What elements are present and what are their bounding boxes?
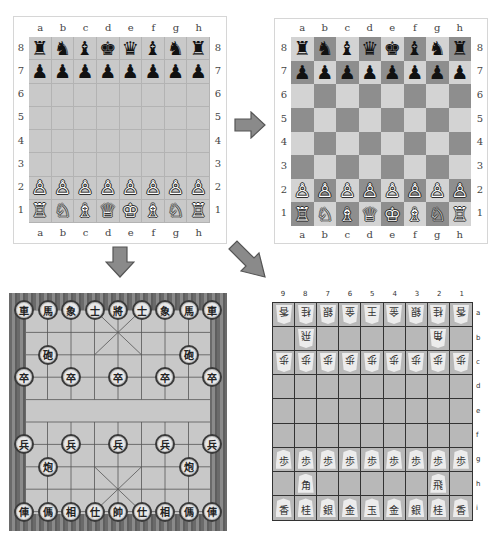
square-f5[interactable] <box>142 107 165 130</box>
shogi-square-3c[interactable]: 歩 <box>406 351 428 375</box>
shogi-square-9i[interactable]: 香 <box>273 496 295 520</box>
shogi-square-7b[interactable] <box>317 327 339 351</box>
square-a8[interactable]: ♜ <box>291 37 314 61</box>
square-a1[interactable]: ♖ <box>29 200 52 223</box>
square-g1[interactable]: ♘ <box>426 202 449 226</box>
shogi-square-8c[interactable]: 歩 <box>295 351 317 375</box>
square-e3[interactable] <box>120 153 143 176</box>
chess-piece-icon[interactable]: ♟ <box>294 63 311 82</box>
square-c1[interactable]: ♗ <box>74 200 97 223</box>
chess-piece-icon[interactable]: ♛ <box>361 39 378 58</box>
shogi-square-3d[interactable] <box>406 375 428 399</box>
chess-piece-icon[interactable]: ♗ <box>77 201 94 220</box>
shogi-piece[interactable]: 歩 <box>408 450 424 469</box>
shogi-square-7i[interactable]: 銀 <box>317 496 339 520</box>
square-g7[interactable]: ♟ <box>426 61 449 85</box>
square-b7[interactable]: ♟ <box>314 61 337 85</box>
square-f4[interactable] <box>404 132 427 156</box>
shogi-piece[interactable]: 銀 <box>408 498 424 517</box>
shogi-square-8g[interactable]: 歩 <box>295 448 317 472</box>
shogi-square-6d[interactable] <box>339 375 361 399</box>
square-c6[interactable] <box>336 84 359 108</box>
shogi-square-1a[interactable]: 香 <box>450 303 472 327</box>
shogi-square-4h[interactable] <box>384 472 406 496</box>
chess-piece-icon[interactable]: ♟ <box>384 63 401 82</box>
square-f2[interactable]: ♙ <box>404 179 427 203</box>
square-b1[interactable]: ♘ <box>52 200 75 223</box>
shogi-square-9d[interactable] <box>273 375 295 399</box>
square-e6[interactable] <box>381 84 404 108</box>
square-e4[interactable] <box>381 132 404 156</box>
shogi-piece[interactable]: 歩 <box>342 450 358 469</box>
shogi-piece[interactable]: 金 <box>386 305 402 324</box>
chess-piece-icon[interactable]: ♚ <box>99 39 116 58</box>
xiangqi-piece[interactable]: 將 <box>108 300 128 320</box>
shogi-piece[interactable]: 歩 <box>453 450 469 469</box>
xiangqi-piece[interactable]: 傌 <box>38 502 58 522</box>
shogi-square-2b[interactable]: 角 <box>428 327 450 351</box>
xiangqi-piece[interactable]: 相 <box>155 502 175 522</box>
chess-piece-icon[interactable]: ♜ <box>31 39 48 58</box>
chess-piece-icon[interactable]: ♙ <box>451 181 468 200</box>
chess-piece-icon[interactable]: ♖ <box>190 201 207 220</box>
square-d7[interactable]: ♟ <box>97 60 120 83</box>
shogi-square-7a[interactable]: 銀 <box>317 303 339 327</box>
shogi-piece[interactable]: 歩 <box>342 353 358 372</box>
chess-piece-icon[interactable]: ♙ <box>384 181 401 200</box>
chess-piece-icon[interactable]: ♝ <box>406 39 423 58</box>
xiangqi-piece[interactable]: 象 <box>155 300 175 320</box>
square-a7[interactable]: ♟ <box>291 61 314 85</box>
square-c3[interactable] <box>336 155 359 179</box>
square-g6[interactable] <box>165 84 188 107</box>
square-g1[interactable]: ♘ <box>165 200 188 223</box>
shogi-square-9b[interactable] <box>273 327 295 351</box>
square-g5[interactable] <box>165 107 188 130</box>
chess-piece-icon[interactable]: ♙ <box>190 178 207 197</box>
square-d4[interactable] <box>359 132 382 156</box>
shogi-piece[interactable]: 歩 <box>320 450 336 469</box>
square-a1[interactable]: ♖ <box>291 202 314 226</box>
chess-piece-icon[interactable]: ♚ <box>384 39 401 58</box>
shogi-piece[interactable]: 歩 <box>453 353 469 372</box>
chess-piece-icon[interactable]: ♟ <box>190 62 207 81</box>
square-c2[interactable]: ♙ <box>336 179 359 203</box>
square-c2[interactable]: ♙ <box>74 177 97 200</box>
chess-piece-icon[interactable]: ♟ <box>451 63 468 82</box>
chess-piece-icon[interactable]: ♞ <box>167 39 184 58</box>
square-b6[interactable] <box>314 84 337 108</box>
shogi-square-6e[interactable] <box>339 399 361 423</box>
square-f1[interactable]: ♗ <box>404 202 427 226</box>
xiangqi-piece[interactable]: 士 <box>132 300 152 320</box>
chess-piece-icon[interactable]: ♟ <box>316 63 333 82</box>
square-a6[interactable] <box>291 84 314 108</box>
square-a8[interactable]: ♜ <box>29 37 52 60</box>
square-g2[interactable]: ♙ <box>165 177 188 200</box>
shogi-square-5h[interactable] <box>361 472 383 496</box>
xiangqi-piece[interactable]: 馬 <box>38 300 58 320</box>
shogi-square-8d[interactable] <box>295 375 317 399</box>
square-h4[interactable] <box>449 132 472 156</box>
square-c7[interactable]: ♟ <box>336 61 359 85</box>
shogi-square-3i[interactable]: 銀 <box>406 496 428 520</box>
square-f1[interactable]: ♗ <box>142 200 165 223</box>
square-f2[interactable]: ♙ <box>142 177 165 200</box>
shogi-piece[interactable]: 歩 <box>386 353 402 372</box>
square-e1[interactable]: ♔ <box>381 202 404 226</box>
shogi-piece[interactable]: 桂 <box>298 498 314 517</box>
square-g3[interactable] <box>426 155 449 179</box>
shogi-square-6b[interactable] <box>339 327 361 351</box>
shogi-square-2d[interactable] <box>428 375 450 399</box>
shogi-square-9e[interactable] <box>273 399 295 423</box>
square-c5[interactable] <box>336 108 359 132</box>
chess-piece-icon[interactable]: ♙ <box>361 181 378 200</box>
square-c3[interactable] <box>74 153 97 176</box>
square-d6[interactable] <box>97 84 120 107</box>
shogi-square-3f[interactable] <box>406 424 428 448</box>
chess-piece-icon[interactable]: ♟ <box>167 62 184 81</box>
square-f6[interactable] <box>142 84 165 107</box>
square-b5[interactable] <box>314 108 337 132</box>
square-c4[interactable] <box>336 132 359 156</box>
chess-piece-icon[interactable]: ♙ <box>429 181 446 200</box>
square-h5[interactable] <box>187 107 210 130</box>
shogi-piece[interactable]: 飛 <box>430 474 446 493</box>
